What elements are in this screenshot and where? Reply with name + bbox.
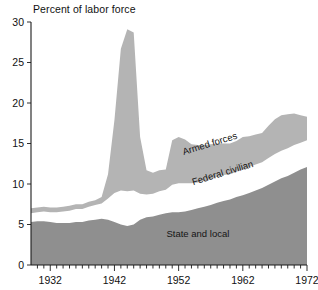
y-tick-label-20: 20	[12, 97, 24, 109]
y-tick-label-30: 30	[12, 16, 24, 28]
y-tick-label-0: 0	[18, 259, 24, 271]
x-tick-label-1932: 1932	[39, 274, 63, 286]
annotation-state-and-local: State and local	[166, 228, 229, 239]
chart-container: Percent of labor force 051015202530 1932…	[0, 0, 318, 290]
x-axis-tick-labels: 19321942195219621972	[39, 274, 318, 286]
x-tick-label-1962: 1962	[231, 274, 255, 286]
x-tick-label-1942: 1942	[103, 274, 127, 286]
y-tick-label-15: 15	[12, 137, 24, 149]
y-tick-label-5: 5	[18, 218, 24, 230]
y-tick-label-25: 25	[12, 56, 24, 68]
y-tick-label-10: 10	[12, 178, 24, 190]
x-tick-label-1952: 1952	[167, 274, 191, 286]
chart-plot-area: 051015202530 19321942195219621972 Armed …	[0, 0, 318, 290]
x-tick-label-1972: 1972	[295, 274, 318, 286]
y-axis-tick-labels: 051015202530	[12, 16, 24, 271]
